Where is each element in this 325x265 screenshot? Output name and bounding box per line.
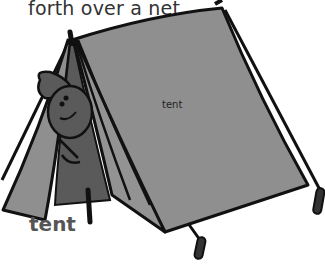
headword: tent	[29, 212, 76, 236]
illustration-label: tent	[162, 99, 182, 110]
dictionary-entry: forth over a net. tent	[0, 0, 325, 265]
